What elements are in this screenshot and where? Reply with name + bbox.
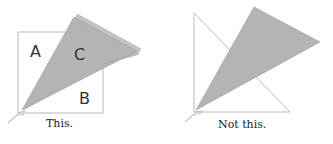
label-c: C <box>74 45 85 64</box>
label-a: A <box>30 42 41 61</box>
panel-incorrect <box>185 7 320 122</box>
caption-incorrect: Not this. <box>218 118 266 131</box>
pointer-mark <box>185 111 202 122</box>
caption-correct: This. <box>46 117 73 130</box>
label-b: B <box>79 89 90 108</box>
panel-correct: A C B <box>8 14 141 123</box>
